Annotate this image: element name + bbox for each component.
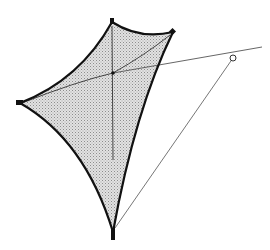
membrane-surface xyxy=(20,22,173,232)
anchor-point xyxy=(230,55,236,61)
inner-node xyxy=(111,71,115,75)
tensile-membrane-diagram xyxy=(0,0,270,250)
corner-top xyxy=(110,18,114,24)
corner-left xyxy=(16,100,23,105)
corner-bottom xyxy=(111,228,115,240)
